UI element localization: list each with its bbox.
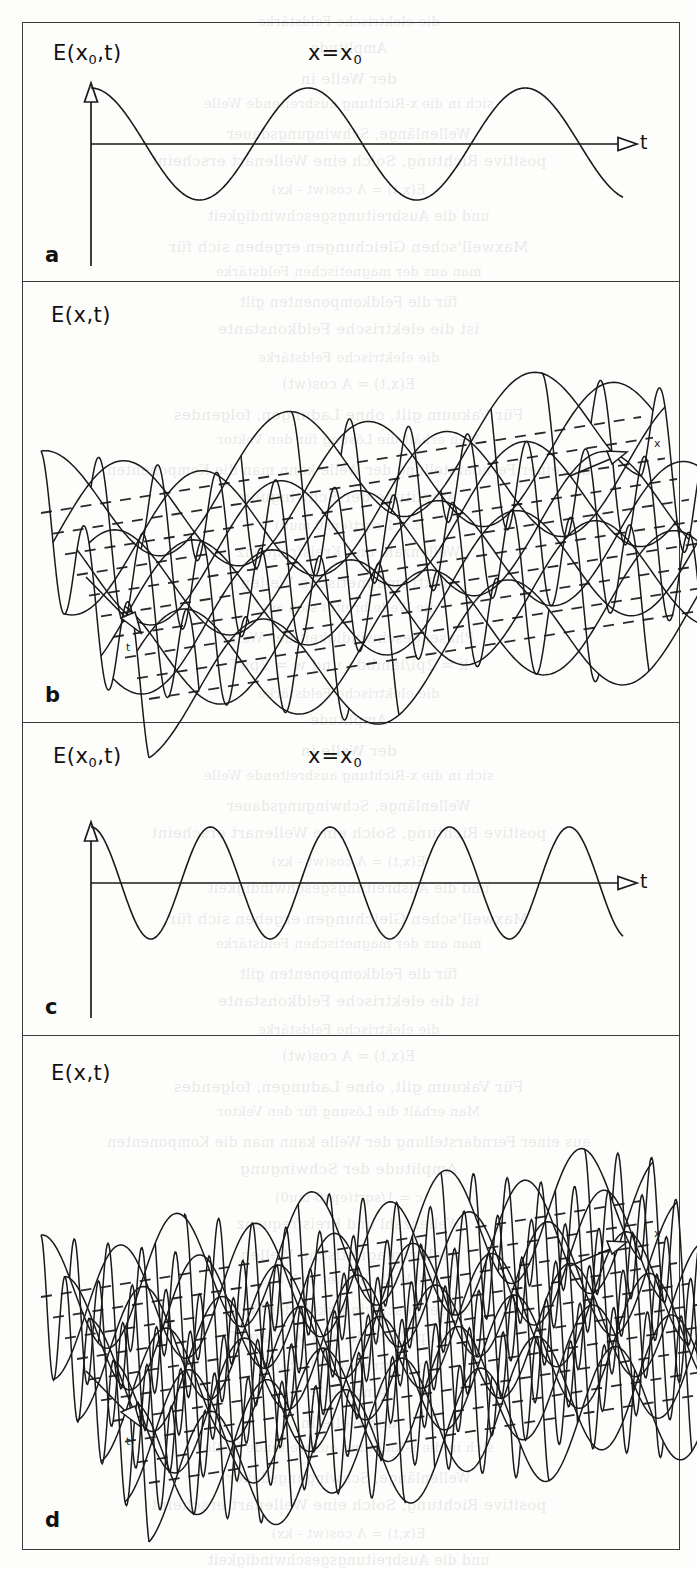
panel-d: E(x,t) x t d bbox=[23, 1035, 679, 1551]
wave-ridge-line bbox=[341, 419, 449, 659]
figure-frame: E(x0,t) x=x0 t a E(x,t) x t b bbox=[22, 22, 680, 1550]
panel-d-plot bbox=[23, 1035, 681, 1551]
wave-ridge-line bbox=[291, 412, 399, 715]
panel-a: E(x0,t) x=x0 t a bbox=[23, 23, 679, 281]
wave-profile-line bbox=[65, 407, 665, 615]
panel-d-x-arrow bbox=[570, 1241, 627, 1266]
wave-profile-line bbox=[41, 372, 641, 555]
panel-c-plot bbox=[23, 722, 681, 1035]
panel-b-plot bbox=[23, 281, 681, 722]
panel-c: E(x0,t) x=x0 t c bbox=[23, 722, 679, 1035]
panel-a-plot bbox=[23, 23, 681, 281]
panel-b: E(x,t) x t b bbox=[23, 281, 679, 722]
wave-ridge-line bbox=[591, 381, 697, 621]
wave-ridge-line bbox=[641, 388, 697, 628]
panel-b-x-arrow bbox=[570, 451, 627, 476]
bleed-line: und die Ausbreitungsgeschwindigkeit bbox=[0, 1552, 697, 1569]
wave-profile-line bbox=[101, 462, 697, 657]
